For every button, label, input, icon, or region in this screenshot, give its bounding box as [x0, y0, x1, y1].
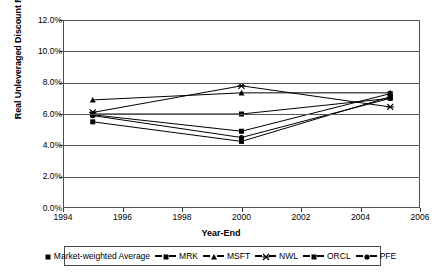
- x-tick-label: 2000: [222, 212, 262, 222]
- gridline: [63, 114, 420, 115]
- legend-marker-square-icon: [162, 253, 169, 260]
- legend-label: MRK: [179, 251, 198, 261]
- legend-item-market-weighted-average[interactable]: Market-weighted Average: [44, 251, 155, 261]
- y-tick-mark: [59, 20, 63, 21]
- series-nwl: [89, 83, 394, 116]
- gridline: [63, 51, 420, 52]
- data-point: [239, 135, 244, 140]
- legend-label: MSFT: [227, 251, 250, 261]
- y-tick-mark: [59, 83, 63, 84]
- y-tick-label: 4.0%: [18, 141, 62, 149]
- legend-marker-triangle-icon: [210, 253, 217, 260]
- legend-label: ORCL: [327, 251, 351, 261]
- x-tick-label: 1996: [103, 212, 143, 222]
- legend-line: [203, 255, 210, 257]
- x-tick-label: 1998: [162, 212, 202, 222]
- y-tick-label: 8.0%: [18, 78, 62, 86]
- x-tick-label: 2006: [400, 212, 440, 222]
- legend-line: [370, 255, 377, 257]
- legend-marker-square-icon: [44, 253, 51, 260]
- y-tick-label: 2.0%: [18, 172, 62, 180]
- y-tick-label: 6.0%: [18, 110, 62, 118]
- data-point: [387, 104, 394, 110]
- y-tick-mark: [59, 51, 63, 52]
- legend-line: [303, 255, 310, 257]
- legend-line: [269, 255, 276, 257]
- y-tick-mark: [59, 145, 63, 146]
- legend-item-msft[interactable]: MSFT: [203, 251, 255, 261]
- y-tick-mark: [59, 114, 63, 115]
- y-tick-label: 0.0%: [18, 204, 62, 212]
- gridline: [63, 20, 420, 21]
- y-tick-label: 10.0%: [18, 47, 62, 55]
- legend-line: [317, 255, 324, 257]
- x-tick-label: 2004: [341, 212, 381, 222]
- legend-line: [155, 255, 162, 257]
- legend-marker-circle-icon: [363, 253, 370, 260]
- y-tick-mark: [59, 177, 63, 178]
- gridline: [63, 83, 420, 84]
- legend-item-pfe[interactable]: PFE: [356, 251, 402, 261]
- legend-line: [217, 255, 224, 257]
- data-point: [238, 83, 245, 89]
- x-tick-label: 2002: [281, 212, 321, 222]
- gridline: [63, 145, 420, 146]
- x-axis-title: Year-End: [186, 228, 256, 238]
- legend-line: [356, 255, 363, 257]
- legend-line: [169, 255, 176, 257]
- legend-marker-square-icon: [310, 253, 317, 260]
- gridline: [63, 177, 420, 178]
- data-point: [388, 96, 393, 101]
- legend-item-nwl[interactable]: NWL: [255, 251, 303, 261]
- plot-area: [63, 20, 420, 208]
- x-tick-label: 1994: [43, 212, 83, 222]
- legend-item-mrk[interactable]: MRK: [155, 251, 203, 261]
- legend-line: [255, 255, 262, 257]
- y-tick-label: 12.0%: [18, 16, 62, 24]
- legend-item-orcl[interactable]: ORCL: [303, 251, 356, 261]
- legend-label: NWL: [279, 251, 298, 261]
- data-point: [90, 119, 95, 124]
- data-point: [239, 129, 244, 134]
- legend-marker-cross-icon: [262, 253, 269, 260]
- legend-label: PFE: [380, 251, 397, 261]
- chart-legend: Market-weighted AverageMRKMSFTNWLORCLPFE: [64, 246, 381, 266]
- chart-container: Real Unleveraged Discount Rates 12.0% 10…: [0, 0, 443, 274]
- legend-label: Market-weighted Average: [54, 251, 150, 261]
- y-axis-tick-labels: 12.0% 10.0% 8.0% 6.0% 4.0% 2.0% 0.0%: [0, 0, 62, 274]
